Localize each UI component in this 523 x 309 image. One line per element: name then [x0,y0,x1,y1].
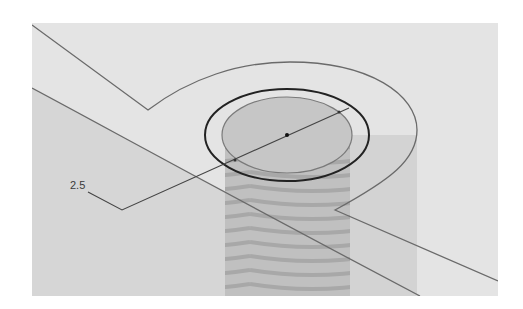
cad-viewport[interactable]: 2.5 [0,0,523,309]
dimension-endpoint-icon [234,159,237,162]
center-point-icon[interactable] [285,133,289,137]
dimension-label[interactable]: 2.5 [70,179,85,191]
model-canvas[interactable] [0,0,523,309]
dimension-endpoint-icon [338,111,341,114]
